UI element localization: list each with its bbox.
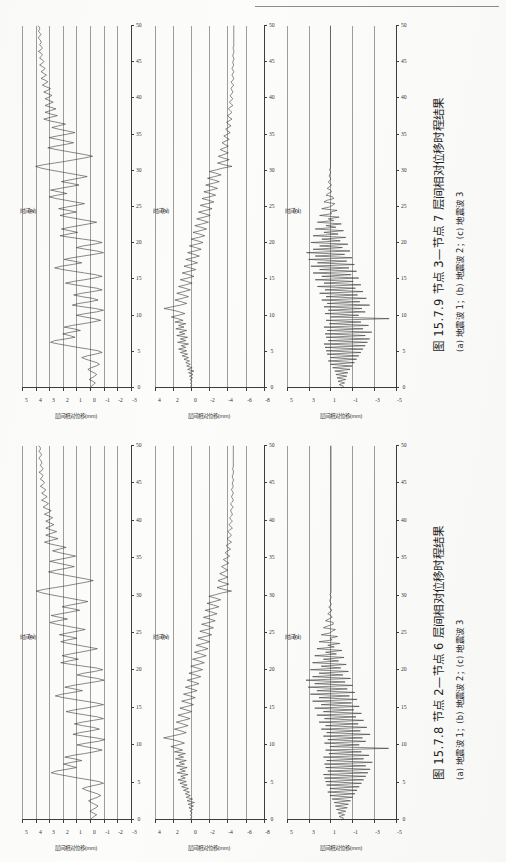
figure-15-7-8-subcaption: (a) 地震波 1；(b) 地震波 2；(c) 地震波 3 (453, 525, 465, 780)
figure-15-7-8-charts: 543210-1-2-305101520253035404550时间(s)(a)… (18, 440, 416, 846)
chart-trace (283, 20, 416, 414)
panel-letter: (b) (161, 633, 168, 639)
figure-15-7-9-caption-block: 图 15.7.9 节点 3—节点 7 层间相对位移时程结果 (a) 地震波 1；… (430, 97, 465, 352)
y-axis-title: 层间相对位移(mm) (320, 844, 363, 852)
chart-plot-2-c: 531-1-3-505101520253035404550时间(s)(c)层间相… (283, 440, 416, 846)
figure-15-7-8-caption-block: 图 15.7.8 节点 2—节点 6 层间相对位移时程结果 (a) 地震波 1；… (430, 525, 465, 780)
figure-15-7-8: 543210-1-2-305101520253035404550时间(s)(a)… (18, 440, 416, 846)
y-axis-title: 层间相对位移(mm) (188, 844, 231, 852)
chart-trace (18, 20, 151, 414)
chart-plot-2-b: 420-2-4-6-805101520253035404550时间(s)(b)层… (151, 440, 284, 846)
y-axis-title: 层间相对位移(mm) (188, 412, 231, 420)
chart-plot-1-b: 420-2-4-6-805101520253035404550时间(s)(b)层… (151, 20, 284, 414)
chart-plot-1-c: 531-1-3-505101520253035404550时间(s)(c)层间相… (283, 20, 416, 414)
chart-panel-a: 543210-1-2-305101520253035404550时间(s)(a)… (18, 20, 151, 414)
y-axis-title: 层间相对位移(mm) (55, 412, 98, 420)
chart-trace (283, 440, 416, 846)
chart-trace (151, 440, 284, 846)
chart-panel-c: 531-1-3-505101520253035404550时间(s)(c)层间相… (283, 20, 416, 414)
chart-plot-2-a: 543210-1-2-305101520253035404550时间(s)(a)… (18, 440, 151, 846)
panel-letter: (b) (161, 207, 168, 213)
panel-letter: (a) (28, 633, 35, 639)
chart-trace (18, 440, 151, 846)
panel-letter: (c) (293, 633, 299, 639)
chart-panel-b: 420-2-4-6-805101520253035404550时间(s)(b)层… (151, 440, 284, 846)
chart-panel-a: 543210-1-2-305101520253035404550时间(s)(a)… (18, 440, 151, 846)
figure-15-7-9: 543210-1-2-305101520253035404550时间(s)(a)… (18, 20, 416, 414)
chart-panel-c: 531-1-3-505101520253035404550时间(s)(c)层间相… (283, 440, 416, 846)
figure-15-7-9-caption: 图 15.7.9 节点 3—节点 7 层间相对位移时程结果 (430, 97, 446, 352)
chart-panel-b: 420-2-4-6-805101520253035404550时间(s)(b)层… (151, 20, 284, 414)
y-axis-title: 层间相对位移(mm) (320, 412, 363, 420)
figure-15-7-9-subcaption: (a) 地震波 1；(b) 地震波 2；(c) 地震波 3 (453, 97, 465, 352)
y-axis-title: 层间相对位移(mm) (55, 844, 98, 852)
panel-letter: (c) (293, 207, 299, 213)
figure-15-7-8-caption: 图 15.7.8 节点 2—节点 6 层间相对位移时程结果 (430, 525, 446, 780)
scanned-page: 543210-1-2-305101520253035404550时间(s)(a)… (0, 0, 506, 862)
chart-trace (151, 20, 284, 414)
page-header-rule (255, 6, 499, 7)
chart-plot-1-a: 543210-1-2-305101520253035404550时间(s)(a)… (18, 20, 151, 414)
figure-15-7-9-charts: 543210-1-2-305101520253035404550时间(s)(a)… (18, 20, 416, 414)
panel-letter: (a) (28, 207, 35, 213)
